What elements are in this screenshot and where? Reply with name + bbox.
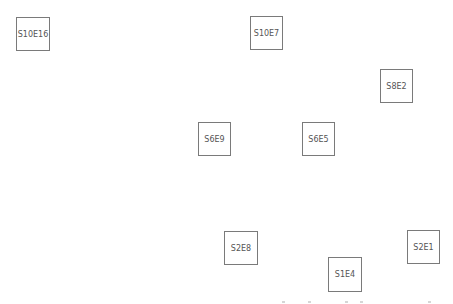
- diagram-canvas: S10E16 S10E7 S8E2 S6E9 S6E5 S2E8 S2E1 S1…: [0, 0, 453, 304]
- faint-mark: [345, 301, 348, 303]
- node-label: S10E16: [18, 30, 49, 39]
- node-label: S1E4: [335, 270, 355, 279]
- faint-mark: [308, 301, 311, 303]
- node-s10e7[interactable]: S10E7: [250, 16, 283, 50]
- node-label: S8E2: [386, 82, 406, 91]
- node-s6e9[interactable]: S6E9: [198, 122, 231, 156]
- node-label: S2E8: [231, 244, 251, 253]
- node-label: S6E9: [204, 135, 224, 144]
- faint-mark: [282, 301, 285, 303]
- node-s6e5[interactable]: S6E5: [302, 122, 335, 156]
- node-s2e1[interactable]: S2E1: [407, 230, 440, 264]
- node-label: S10E7: [254, 29, 279, 38]
- node-s2e8[interactable]: S2E8: [224, 231, 258, 265]
- node-label: S2E1: [413, 243, 433, 252]
- faint-mark: [360, 301, 363, 303]
- node-s8e2[interactable]: S8E2: [380, 69, 413, 103]
- node-label: S6E5: [308, 135, 328, 144]
- node-s10e16[interactable]: S10E16: [16, 17, 50, 51]
- node-s1e4[interactable]: S1E4: [328, 257, 362, 292]
- faint-footer-marks: [270, 300, 453, 304]
- faint-mark: [428, 301, 431, 303]
